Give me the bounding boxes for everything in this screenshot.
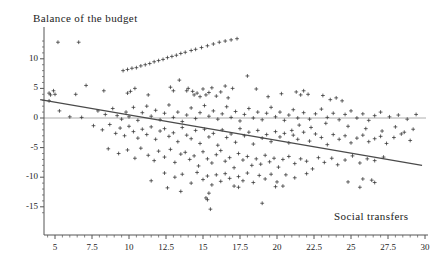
data-point-marker [379, 134, 383, 138]
data-point-marker [167, 103, 171, 107]
data-point-marker [179, 52, 183, 56]
data-point-marker [246, 155, 250, 159]
data-point-marker [251, 116, 255, 120]
data-point-marker [280, 92, 284, 96]
data-point-marker [139, 146, 143, 150]
data-point-marker [192, 93, 196, 97]
data-point-marker [154, 108, 158, 112]
data-point-marker [210, 183, 214, 187]
data-point-marker [243, 113, 247, 117]
data-point-marker [172, 89, 176, 93]
data-point-marker [56, 40, 60, 44]
data-point-marker [177, 78, 181, 82]
data-point-marker [246, 74, 250, 78]
data-point-marker [370, 178, 374, 182]
data-point-marker [259, 162, 263, 166]
data-point-marker [340, 99, 344, 103]
data-point-marker [355, 136, 359, 140]
y-tick-label: -15 [12, 201, 38, 211]
data-point-marker [296, 137, 300, 141]
data-point-marker [274, 185, 278, 189]
data-point-marker [392, 136, 396, 140]
data-point-marker [145, 104, 149, 108]
data-point-marker [232, 184, 236, 188]
data-point-marker [306, 92, 310, 96]
x-axis-title: Social transfers [334, 210, 409, 222]
data-point-marker [223, 39, 227, 43]
data-point-marker [228, 176, 232, 180]
data-point-marker [299, 93, 303, 97]
data-point-marker [198, 111, 202, 115]
data-point-marker [166, 56, 170, 60]
data-point-marker [269, 140, 273, 144]
data-point-marker [373, 181, 377, 185]
data-points [47, 37, 418, 211]
data-point-marker [189, 106, 193, 110]
data-point-marker [207, 135, 211, 139]
data-point-marker [106, 147, 110, 151]
data-point-marker [358, 185, 362, 189]
data-point-marker [358, 161, 362, 165]
data-point-marker [158, 129, 162, 133]
scatter-chart-figure: Balance of the budget Social transfers 1… [0, 0, 442, 262]
data-point-marker [281, 184, 285, 188]
data-point-marker [139, 64, 143, 68]
data-point-marker [343, 113, 347, 117]
data-point-marker [251, 142, 255, 146]
data-point-marker [214, 153, 218, 157]
data-point-marker [117, 152, 121, 156]
data-point-marker [256, 110, 260, 114]
data-point-marker [281, 158, 285, 162]
data-point-marker [305, 172, 309, 176]
data-point-marker [132, 105, 136, 109]
data-point-marker [216, 143, 220, 147]
data-point-marker [185, 113, 189, 117]
data-point-marker [163, 111, 167, 115]
data-point-marker [399, 132, 403, 136]
data-point-marker [293, 162, 297, 166]
data-point-marker [129, 89, 133, 93]
data-point-marker [302, 130, 306, 134]
data-point-marker [52, 89, 56, 93]
data-point-marker [214, 94, 218, 98]
data-point-marker [140, 111, 144, 115]
data-point-marker [161, 57, 165, 61]
data-point-marker [201, 178, 205, 182]
data-point-marker [328, 98, 332, 102]
data-point-marker [225, 136, 229, 140]
data-point-marker [238, 119, 242, 123]
data-point-marker [58, 109, 62, 113]
data-point-marker [322, 161, 326, 165]
data-point-marker [201, 150, 205, 154]
data-point-marker [176, 140, 180, 144]
data-point-marker [367, 118, 371, 122]
y-tick-label: 0 [12, 112, 38, 122]
y-tick-label: -5 [12, 142, 38, 152]
data-point-marker [136, 136, 140, 140]
data-point-marker [228, 156, 232, 160]
data-point-marker [152, 159, 156, 163]
data-point-marker [103, 113, 107, 117]
data-point-marker [195, 91, 199, 95]
x-tick-label: 7.5 [76, 242, 108, 252]
data-point-marker [185, 133, 189, 137]
data-point-marker [260, 118, 264, 122]
data-point-marker [124, 110, 128, 114]
data-point-marker [247, 130, 251, 134]
y-axis [40, 27, 44, 235]
data-point-marker [296, 116, 300, 120]
data-point-marker [200, 46, 204, 50]
data-point-marker [192, 154, 196, 158]
data-point-marker [198, 142, 202, 146]
data-point-marker [309, 126, 313, 130]
data-point-marker [297, 123, 301, 127]
data-point-marker [394, 125, 398, 129]
data-point-marker [241, 158, 245, 162]
data-point-marker [346, 180, 350, 184]
data-point-marker [272, 156, 276, 160]
data-point-marker [367, 140, 371, 144]
data-point-marker [169, 147, 173, 151]
data-point-marker [118, 126, 122, 130]
data-point-marker [217, 40, 221, 44]
data-point-marker [180, 126, 184, 130]
